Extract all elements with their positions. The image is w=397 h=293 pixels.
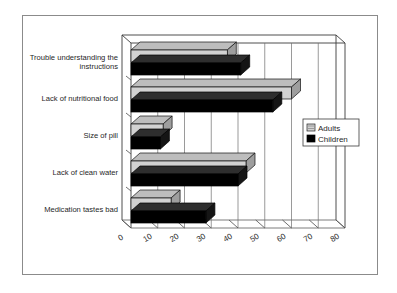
x-tick-label: 40 <box>222 231 235 244</box>
legend-label-children: Children <box>318 135 348 144</box>
category-label-size-of-pill: Size of pill <box>83 131 118 140</box>
category-label-trouble-understanding-line2: instructions <box>80 62 119 71</box>
bar-children-trouble-understanding <box>131 55 250 75</box>
legend-swatch-children <box>307 135 315 142</box>
x-tick-label: 10 <box>141 231 154 244</box>
x-tick-label: 80 <box>329 231 342 244</box>
category-labels: Trouble understanding the instructions L… <box>30 53 119 214</box>
x-tick-label: 20 <box>168 231 181 244</box>
bar-children-size-of-pill <box>131 129 169 149</box>
bar-chart: 0 10 20 30 40 50 60 70 80 Trouble unders… <box>0 0 397 293</box>
x-tick-label: 0 <box>117 233 126 243</box>
x-tick-label: 60 <box>275 231 288 244</box>
chart-legend[interactable]: Adults Children <box>303 119 359 146</box>
category-label-lack-nutritional-food: Lack of nutritional food <box>42 94 118 103</box>
bar-children-medication-tastes-bad <box>131 203 215 223</box>
bar-children-lack-clean-water <box>131 166 247 186</box>
category-label-trouble-understanding-line1: Trouble understanding the <box>30 53 118 62</box>
x-tick-label: 30 <box>195 231 208 244</box>
x-tick-labels: 0 10 20 30 40 50 60 70 80 <box>117 231 342 244</box>
bar-group-lack-nutritional-food <box>131 79 301 112</box>
category-label-lack-clean-water: Lack of clean water <box>53 168 119 177</box>
bar-group-lack-clean-water <box>131 153 255 186</box>
x-tick-label: 70 <box>302 231 315 244</box>
x-tick-label: 50 <box>248 231 261 244</box>
category-label-medication-tastes-bad: Medication tastes bad <box>44 205 118 214</box>
bar-group-trouble-understanding <box>131 42 250 75</box>
bar-group-medication-tastes-bad <box>131 190 215 223</box>
bar-group-size-of-pill <box>131 116 172 149</box>
bar-children-lack-nutritional-food <box>131 92 282 112</box>
y-axis-ticks <box>126 76 131 191</box>
legend-label-adults: Adults <box>318 124 340 133</box>
legend-swatch-adults <box>307 124 315 131</box>
